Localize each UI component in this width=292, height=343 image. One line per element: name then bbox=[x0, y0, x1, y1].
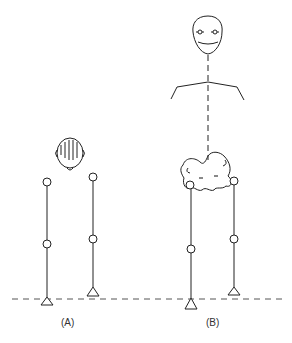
diagram-canvas bbox=[0, 0, 292, 343]
panel-a-label: (A) bbox=[61, 317, 74, 328]
panel-a-head-top-view bbox=[56, 138, 85, 170]
panel-a-left-leg bbox=[41, 178, 53, 305]
panel-b-face bbox=[193, 16, 222, 54]
panel-a-right-leg bbox=[87, 173, 99, 296]
panel-b-right-leg bbox=[228, 177, 240, 295]
panel-b-left-leg bbox=[185, 181, 197, 309]
panel-b-label: (B) bbox=[206, 317, 219, 328]
